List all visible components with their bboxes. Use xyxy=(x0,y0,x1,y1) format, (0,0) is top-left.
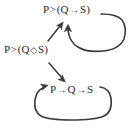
source-formula-left-term: Q xyxy=(22,43,30,55)
source-formula-close-paren: ) xyxy=(44,43,48,55)
branch-down-arrow xyxy=(49,63,65,82)
bottom-formula-operator-two: → xyxy=(76,84,87,95)
top-formula-close-paren: ) xyxy=(86,3,90,15)
top-self-loop-path xyxy=(68,14,125,51)
bottom-formula-third-term: S xyxy=(87,83,93,95)
top-self-loop xyxy=(64,14,125,51)
top-formula-inner-operator: → xyxy=(69,4,80,15)
source-formula-operator: > xyxy=(10,43,17,55)
branch-up-arrow xyxy=(48,22,63,41)
branch-down-arrowhead xyxy=(58,75,65,82)
branch-up-arrow-line xyxy=(48,26,60,41)
top-formula-operator: > xyxy=(49,3,56,15)
source-formula-inner-operator: ◇ xyxy=(30,45,38,55)
diagram-edges-layer xyxy=(0,0,133,128)
branch-down-arrow-line xyxy=(49,63,62,78)
source-formula: P>(Q◇S) xyxy=(4,44,48,55)
bottom-formula: P→Q→S xyxy=(50,84,93,95)
bottom-formula-second-term: Q xyxy=(68,83,76,95)
bottom-formula-operator-one: → xyxy=(56,84,67,95)
top-formula-left-term: Q xyxy=(61,3,69,15)
top-formula: P>(Q→S) xyxy=(43,4,90,15)
diagram-canvas: P>(Q→S) P>(Q◇S) P→Q→S xyxy=(0,0,133,128)
